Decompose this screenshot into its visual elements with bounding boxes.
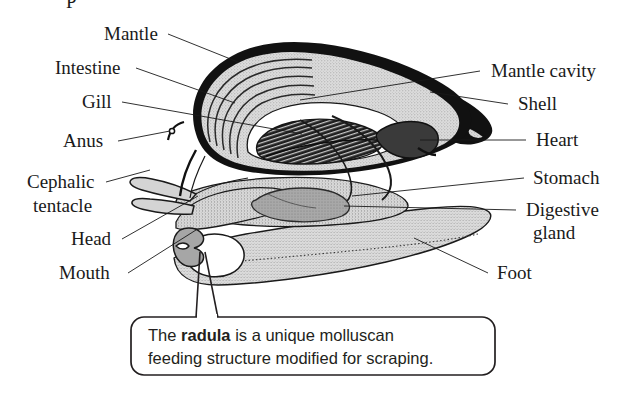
label-stomach: Stomach bbox=[533, 167, 600, 188]
label-group-right: Mantle cavity Shell Heart Stomach Digest… bbox=[491, 60, 600, 283]
label-gill: Gill bbox=[82, 91, 112, 112]
label-mouth: Mouth bbox=[59, 262, 110, 283]
label-head: Head bbox=[71, 228, 112, 249]
mouth-opening bbox=[176, 243, 189, 249]
label-heart: Heart bbox=[536, 129, 579, 150]
label-digestive-line1: Digestive bbox=[526, 199, 599, 220]
callout-line1-post: is a unique molluscan bbox=[231, 326, 394, 344]
label-foot: Foot bbox=[497, 262, 533, 283]
diagram-canvas: P bbox=[0, 0, 634, 401]
snail-anatomy-figure: P bbox=[0, 0, 634, 401]
label-shell: Shell bbox=[518, 93, 557, 114]
cropped-title-fragment: P bbox=[66, 0, 77, 12]
label-anus: Anus bbox=[63, 130, 103, 151]
callout-line-2: feeding structure modified for scraping. bbox=[148, 349, 433, 367]
label-cephalic-line1: Cephalic bbox=[27, 171, 95, 192]
label-group-left: Mantle Intestine Gill Anus Cephalic tent… bbox=[27, 23, 158, 283]
callout-line-1: The radula is a unique molluscan bbox=[148, 326, 394, 344]
label-mantle: Mantle bbox=[104, 23, 158, 44]
label-cephalic-line2: tentacle bbox=[33, 195, 92, 216]
leader-mantle bbox=[168, 34, 238, 62]
label-mantle-cavity: Mantle cavity bbox=[491, 60, 596, 81]
cephalic-tentacle-upper bbox=[130, 178, 196, 201]
snail-illustration bbox=[130, 42, 492, 285]
label-intestine: Intestine bbox=[55, 57, 120, 78]
leader-anus bbox=[118, 131, 170, 141]
callout-line1-pre: The bbox=[148, 326, 181, 344]
label-digestive-line2: gland bbox=[533, 222, 576, 243]
cephalic-tentacles bbox=[130, 178, 196, 215]
callout-line1-bold: radula bbox=[181, 326, 231, 344]
